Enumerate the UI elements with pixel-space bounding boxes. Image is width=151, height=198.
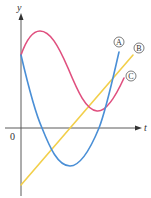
t-axis-label: t [144,122,147,133]
curve-a [21,52,119,166]
y-axis-arrow-icon [19,13,24,20]
y-axis-label: y [16,2,22,13]
curve-c [21,31,124,111]
origin-label: 0 [10,131,15,142]
label-c: C [126,71,136,81]
label-a-text: A [116,38,122,47]
label-c-text: C [128,72,133,81]
function-graph: y t 0 A B C [0,0,151,198]
curve-b [21,55,133,185]
label-b: B [134,43,144,53]
label-b-text: B [136,44,141,53]
label-a: A [114,37,124,47]
t-axis-arrow-icon [135,126,142,131]
